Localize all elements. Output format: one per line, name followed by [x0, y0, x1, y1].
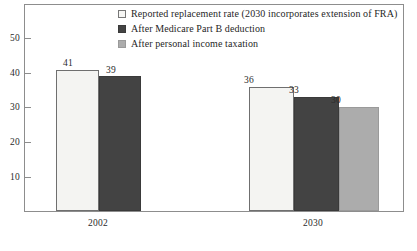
y-tick-label-40: 40 — [0, 68, 20, 78]
bar-2030-after-taxation[interactable] — [339, 107, 379, 211]
legend-swatch-icon-after-medicare — [118, 25, 126, 33]
legend-swatch-icon-after-taxation — [118, 40, 126, 48]
bar-2030-reported[interactable] — [249, 87, 294, 211]
bar-chart-figure: 50 40 30 20 10 41 39 36 33 30 2002 2030 … — [0, 0, 417, 251]
chart-legend: Reported replacement rate (2030 incorpor… — [118, 7, 380, 52]
bar-value-36: 36 — [227, 75, 271, 85]
legend-label-after-taxation: After personal income taxation — [131, 37, 258, 50]
y-tick-label-30: 30 — [0, 102, 20, 112]
y-tick-label-10: 10 — [0, 172, 20, 182]
bar-value-30: 30 — [315, 95, 357, 105]
y-tick-label-20: 20 — [0, 137, 20, 147]
x-group-label-2030: 2030 — [248, 218, 378, 229]
bar-2002-reported[interactable] — [56, 70, 99, 211]
bar-value-33: 33 — [272, 85, 316, 95]
bar-value-39: 39 — [89, 65, 133, 75]
x-group-label-2002: 2002 — [56, 218, 140, 229]
legend-item-reported-replacement-rate[interactable]: Reported replacement rate (2030 incorpor… — [118, 7, 380, 22]
figure-caption-cropped — [20, 243, 410, 251]
legend-label-after-medicare: After Medicare Part B deduction — [131, 22, 265, 35]
bar-2002-after-medicare[interactable] — [99, 76, 141, 211]
y-tick-label-50: 50 — [0, 33, 20, 43]
legend-label-reported: Reported replacement rate (2030 incorpor… — [131, 7, 397, 20]
legend-item-after-taxation[interactable]: After personal income taxation — [118, 37, 380, 52]
bar-2030-after-medicare[interactable] — [294, 97, 339, 211]
bar-value-41: 41 — [46, 58, 90, 68]
legend-item-after-medicare[interactable]: After Medicare Part B deduction — [118, 22, 380, 37]
legend-swatch-icon-reported — [118, 10, 126, 18]
